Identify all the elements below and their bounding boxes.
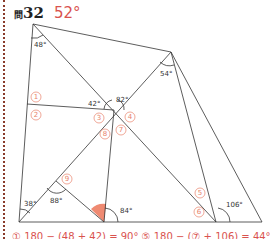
angle-82: 82° xyxy=(116,96,128,104)
marker-8: 8 xyxy=(100,129,110,139)
svg-text:4: 4 xyxy=(128,113,133,121)
marker-4: 4 xyxy=(125,112,135,122)
angle-48: 48° xyxy=(34,41,46,49)
marker-2: 2 xyxy=(31,110,41,120)
solution-line: ① 180 − (48 + 42) = 90° ⑤ 180 − (⑦ + 106… xyxy=(12,231,270,239)
angle-54: 54° xyxy=(160,70,172,78)
angle-38: 38° xyxy=(24,200,36,208)
marker-7: 7 xyxy=(116,125,126,135)
marker-1: 1 xyxy=(31,92,41,102)
marker-9: 9 xyxy=(62,174,72,184)
svg-text:8: 8 xyxy=(103,130,107,138)
marker-3: 3 xyxy=(94,113,104,123)
svg-text:1: 1 xyxy=(34,93,38,101)
geometry-figure: 48° 54° 42° 82° 38° 88° 84° 106° 1 2 3 4… xyxy=(0,0,270,239)
svg-text:2: 2 xyxy=(34,111,38,119)
angle-106: 106° xyxy=(226,201,243,209)
marker-5: 5 xyxy=(195,188,205,198)
svg-text:3: 3 xyxy=(97,114,101,122)
marker-6: 6 xyxy=(194,207,204,217)
svg-text:5: 5 xyxy=(198,189,202,197)
svg-text:9: 9 xyxy=(65,175,69,183)
angle-88: 88° xyxy=(50,197,62,205)
angle-42: 42° xyxy=(88,100,100,108)
svg-text:7: 7 xyxy=(119,126,123,134)
svg-text:6: 6 xyxy=(197,208,202,216)
angle-84: 84° xyxy=(120,207,132,215)
